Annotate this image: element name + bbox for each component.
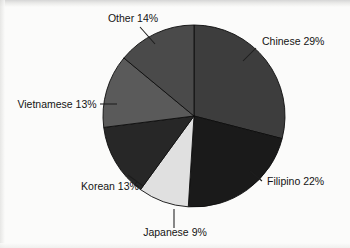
- slice-label-korean: Korean 13%: [81, 180, 139, 192]
- pie-chart-figure: Chinese 29%Filipino 22%Japanese 9%Korean…: [0, 0, 350, 248]
- slice-label-japanese: Japanese 9%: [143, 226, 207, 238]
- slice-label-other: Other 14%: [108, 12, 158, 24]
- slice-label-vietnamese: Vietnamese 13%: [17, 98, 96, 110]
- slice-label-filipino: Filipino 22%: [267, 175, 324, 187]
- pie-chart-svg: Chinese 29%Filipino 22%Japanese 9%Korean…: [0, 0, 350, 248]
- slice-label-chinese: Chinese 29%: [262, 35, 324, 47]
